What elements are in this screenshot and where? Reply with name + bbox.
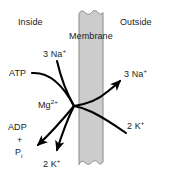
compartment-label-inside: Inside (18, 18, 43, 27)
membrane-label: Membrane (69, 32, 113, 41)
sodium-in-symbol: Na (51, 49, 63, 59)
label-adp: ADP (8, 123, 27, 132)
adp-release-arrow (38, 106, 74, 145)
diagram-canvas: Inside Outside Membrane 3 Na+ ATP Mg2+ A… (0, 0, 171, 176)
potassium-out-count: 2 (127, 121, 132, 131)
label-sodium-outside: 3 Na+ (124, 70, 147, 79)
sodium-in-curve (57, 61, 74, 106)
potassium-out-charge: + (141, 119, 145, 126)
sodium-in-charge: + (62, 47, 66, 54)
sodium-out-symbol: Na (132, 69, 144, 79)
potassium-in-count: 2 (43, 159, 48, 169)
sodium-out-count: 3 (124, 69, 129, 79)
label-potassium-outside: 2 K+ (127, 122, 145, 131)
potassium-in-arrow (57, 106, 74, 150)
label-inorganic-phosphate: Pi (15, 148, 23, 157)
label-magnesium: Mg2+ (38, 101, 58, 110)
label-potassium-inside: 2 K+ (43, 160, 61, 169)
compartment-label-outside: Outside (120, 18, 152, 27)
label-atp: ATP (9, 69, 26, 78)
magnesium-symbol: Mg (38, 100, 51, 110)
magnesium-charge: 2+ (51, 98, 58, 105)
label-sodium-inside: 3 Na+ (43, 50, 66, 59)
potassium-in-charge: + (57, 157, 61, 164)
phosphate-subscript: i (21, 152, 22, 159)
sodium-out-charge: + (143, 67, 147, 74)
sodium-in-count: 3 (43, 49, 48, 59)
label-plus-sign: + (17, 136, 22, 145)
